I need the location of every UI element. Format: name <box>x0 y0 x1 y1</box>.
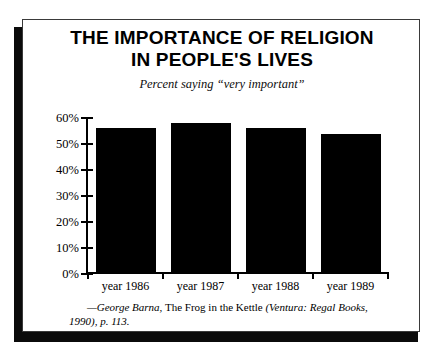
y-axis-tick-label: 20% <box>37 215 79 230</box>
x-axis-tick-label: year 1987 <box>163 279 238 294</box>
x-axis-tick-label: year 1986 <box>88 279 163 294</box>
bar <box>96 128 156 274</box>
bar-series <box>88 118 388 274</box>
source-citation: —George Barna, The Frog in the Kettle (V… <box>69 301 379 328</box>
source-work: The Frog in the Kettle <box>165 301 263 313</box>
y-axis-tick-label: 10% <box>37 241 79 256</box>
y-axis-tick-label: 50% <box>37 137 79 152</box>
bar <box>246 128 306 274</box>
chart-figure: THE IMPORTANCE OF RELIGION IN PEOPLE'S L… <box>0 0 428 354</box>
y-axis-labels: 0%10%20%30%40%50%60% <box>35 20 79 333</box>
x-axis-tick-label: year 1988 <box>238 279 313 294</box>
plot-area: 0%10%20%30%40%50%60% year 1986year 1987y… <box>23 20 421 333</box>
y-axis-tick-label: 30% <box>37 189 79 204</box>
x-axis-tick-label: year 1989 <box>313 279 388 294</box>
source-attribution: —George Barna, <box>87 301 162 313</box>
chart-frame: THE IMPORTANCE OF RELIGION IN PEOPLE'S L… <box>22 19 420 332</box>
y-axis-tick-label: 60% <box>37 111 79 126</box>
bar <box>171 123 231 274</box>
y-axis-tick-label: 0% <box>37 267 79 282</box>
bar <box>321 134 381 274</box>
y-axis-tick-label: 40% <box>37 163 79 178</box>
